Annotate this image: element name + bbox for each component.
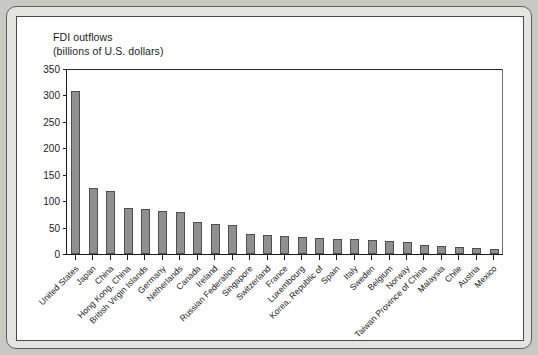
bar (263, 235, 272, 254)
y-tick-label: 200 (43, 143, 67, 154)
fdi-outflows-bar-chart: FDI outflows (billions of U.S. dollars) … (17, 17, 523, 340)
bar-slot (416, 69, 433, 254)
y-tick-label: 150 (43, 169, 67, 180)
inner-chart-frame: FDI outflows (billions of U.S. dollars) … (16, 16, 524, 341)
bar-slot (433, 69, 450, 254)
bar (437, 246, 446, 254)
bar-slot (363, 69, 380, 254)
bar-slot (67, 69, 84, 254)
y-tick-label: 250 (43, 116, 67, 127)
bar (228, 225, 237, 254)
y-tick-label: 350 (43, 64, 67, 75)
bar-slot (276, 69, 293, 254)
bar (124, 208, 133, 255)
y-tick-label: 50 (49, 222, 67, 233)
bar (71, 91, 80, 254)
bar (106, 191, 115, 254)
bar (158, 211, 167, 254)
bar (420, 245, 429, 254)
bar-slot (294, 69, 311, 254)
bar-slot (259, 69, 276, 254)
bar-slot (486, 69, 503, 254)
bar-series (67, 69, 503, 254)
bar (246, 234, 255, 254)
bar (385, 241, 394, 254)
bar-slot (189, 69, 206, 254)
bar (280, 236, 289, 255)
bar (472, 248, 481, 254)
bar-slot (346, 69, 363, 254)
bar-slot (381, 69, 398, 254)
bar-slot (154, 69, 171, 254)
y-tick-label: 100 (43, 196, 67, 207)
bar (333, 239, 342, 254)
bar-slot (241, 69, 258, 254)
bar-slot (468, 69, 485, 254)
bar-slot (451, 69, 468, 254)
chart-subtitle-units: (billions of U.S. dollars) (53, 44, 164, 58)
x-label-slot: Mexico (485, 260, 502, 340)
bar-slot (329, 69, 346, 254)
bar-slot (102, 69, 119, 254)
outer-page-frame: FDI outflows (billions of U.S. dollars) … (6, 6, 532, 349)
bar-slot (207, 69, 224, 254)
bar (298, 237, 307, 254)
bar-slot (172, 69, 189, 254)
bar (193, 222, 202, 254)
bar (368, 240, 377, 254)
bar (350, 239, 359, 254)
bar (176, 212, 185, 254)
bar (315, 238, 324, 254)
plot-area: 050100150200250300350 (66, 69, 503, 255)
chart-title: FDI outflows (53, 30, 113, 44)
x-axis-category-labels: United StatesJapanChinaHong Kong, ChinaB… (66, 260, 502, 340)
bar-slot (398, 69, 415, 254)
bar (89, 188, 98, 254)
bar (403, 242, 412, 254)
bar-slot (224, 69, 241, 254)
bar-slot (84, 69, 101, 254)
bar (455, 247, 464, 254)
x-axis-label: United States (37, 263, 81, 307)
bar-slot (311, 69, 328, 254)
bar (490, 249, 499, 254)
bar-slot (119, 69, 136, 254)
bar-slot (137, 69, 154, 254)
bar (211, 224, 220, 254)
bar (141, 209, 150, 254)
y-tick-label: 300 (43, 90, 67, 101)
